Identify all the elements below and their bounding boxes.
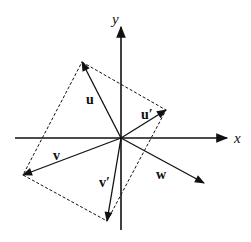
- label-u-prime: u′: [141, 107, 153, 122]
- vector-diagram: y x u u′ v v′ w: [0, 0, 251, 242]
- label-u: u: [86, 92, 94, 107]
- label-v-prime: v′: [99, 175, 110, 190]
- label-w: w: [156, 167, 167, 182]
- vector-v: [23, 138, 121, 175]
- x-axis-label: x: [233, 130, 241, 146]
- label-v: v: [53, 148, 60, 163]
- y-axis-label: y: [110, 11, 119, 27]
